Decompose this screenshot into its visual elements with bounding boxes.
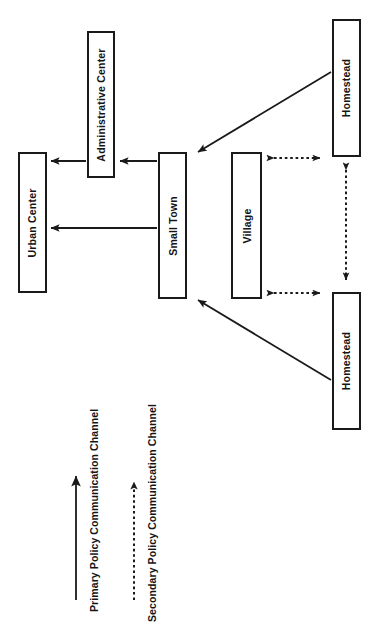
node-label-village: Village xyxy=(241,208,253,243)
node-label-homestead-top: Homestead xyxy=(341,59,353,117)
legend-label-primary: Primary Policy Communication Channel xyxy=(88,409,100,612)
node-label-urban-center: Urban Center xyxy=(27,188,39,257)
legend-label-secondary: Secondary Policy Communication Channel xyxy=(146,404,158,622)
node-small-town[interactable]: Small Town xyxy=(158,152,187,299)
node-homestead-top[interactable]: Homestead xyxy=(332,19,361,157)
edge-homestead-top-to-smalltown xyxy=(198,72,331,152)
node-urban-center[interactable]: Urban Center xyxy=(18,152,47,293)
node-homestead-bottom[interactable]: Homestead xyxy=(332,292,361,430)
node-administrative-center[interactable]: Administrative Center xyxy=(87,31,115,178)
node-label-homestead-bottom: Homestead xyxy=(341,332,353,390)
node-label-small-town: Small Town xyxy=(167,196,179,256)
node-village[interactable]: Village xyxy=(231,152,262,299)
connector-layer xyxy=(0,0,371,628)
edge-homestead-bottom-to-smalltown xyxy=(198,300,331,380)
diagram-canvas: Urban Center Administrative Center Small… xyxy=(0,0,371,628)
node-label-administrative-center: Administrative Center xyxy=(95,48,107,161)
